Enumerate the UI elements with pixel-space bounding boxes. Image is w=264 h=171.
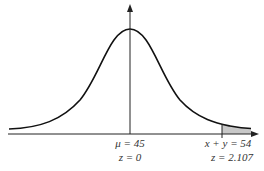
mean-z-label: z = 0 [118, 151, 142, 163]
x-axis-arrow-icon [251, 131, 259, 137]
y-axis-arrow-icon [127, 4, 133, 12]
normal-curve-diagram: μ = 45 z = 0 x + y = 54 z = 2.107 [0, 0, 264, 171]
cutoff-z-label: z = 2.107 [210, 151, 253, 163]
cutoff-label: x + y = 54 [204, 137, 252, 149]
mean-label: μ = 45 [114, 137, 145, 149]
